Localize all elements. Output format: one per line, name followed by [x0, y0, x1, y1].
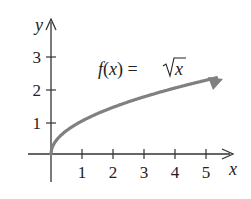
curve-arrow-icon — [208, 77, 223, 90]
y-tick-label: 2 — [33, 81, 42, 100]
x-axis-label: x — [228, 159, 237, 179]
sqrt-curve — [51, 78, 217, 154]
y-tick-labels: 1 2 3 — [33, 48, 42, 133]
function-label: f(x) = x — [98, 58, 186, 80]
y-tick-label: 3 — [33, 48, 42, 67]
x-tick-label: 2 — [109, 163, 118, 182]
x-tick-label: 5 — [202, 163, 211, 182]
svg-text:f(x) =: f(x) = — [98, 59, 138, 80]
y-tick-label: 1 — [33, 114, 42, 133]
y-axis-label: y — [33, 15, 43, 35]
x-tick-label: 3 — [140, 163, 149, 182]
x-tick-labels: 1 2 3 4 5 — [78, 163, 211, 182]
x-tick-label: 4 — [171, 163, 180, 182]
sqrt-function-graph: 1 2 3 4 5 1 2 3 x y f(x) = x — [0, 0, 251, 199]
radicand: x — [174, 59, 183, 79]
x-tick-label: 1 — [78, 163, 87, 182]
